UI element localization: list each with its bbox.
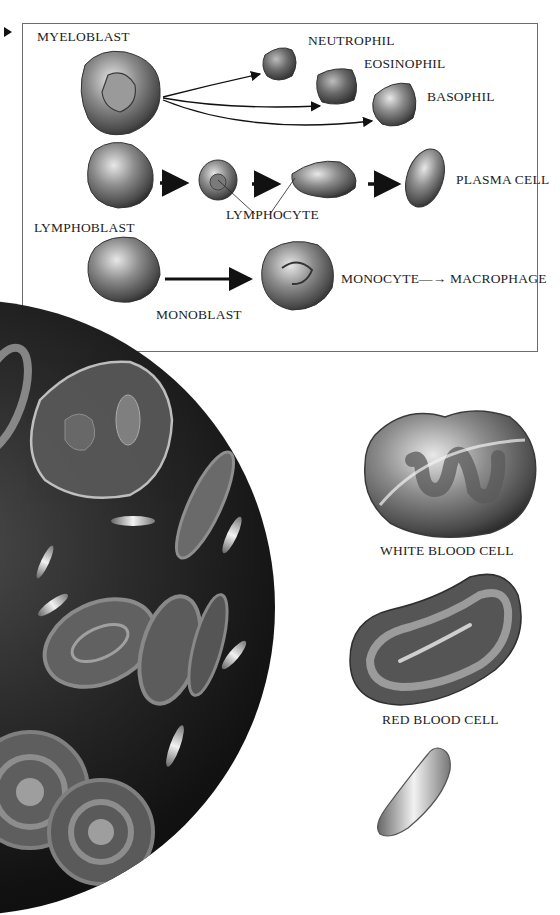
micrograph-rbc-elongated xyxy=(166,446,244,565)
micrograph-rbc-round xyxy=(0,732,153,884)
micrograph-platelet xyxy=(34,544,56,580)
label-white-blood-cell: WHITE BLOOD CELL xyxy=(380,543,514,559)
micrograph-platelet xyxy=(35,591,70,620)
red-blood-cell-illustration xyxy=(340,565,530,710)
micrograph-platelet xyxy=(163,724,187,769)
label-lymphocyte: LYMPHOCYTE xyxy=(226,207,319,223)
arrow-to-eosinophil xyxy=(163,98,320,107)
arrow-to-neutrophil xyxy=(163,74,260,97)
micrograph-cells xyxy=(0,300,275,915)
label-monocyte-macrophage: MONOCYTE—→ MACROPHAGE xyxy=(341,271,547,287)
activated-lymphocyte-cell xyxy=(292,161,356,198)
micrograph-platelet xyxy=(130,323,175,340)
label-plasma-cell: PLASMA CELL xyxy=(456,172,549,188)
monoblast-cell xyxy=(88,237,160,302)
basophil-cell xyxy=(373,83,416,126)
lymphoblast-cell xyxy=(88,142,153,208)
micrograph-white-blood-cell xyxy=(31,362,172,498)
plasma-cell xyxy=(399,144,452,212)
micrograph-platelet xyxy=(219,515,245,555)
red-blood-cell-side-view xyxy=(368,740,458,840)
micrograph-platelet xyxy=(111,516,155,526)
label-eosinophil: EOSINOPHIL xyxy=(364,56,446,72)
label-basophil: BASOPHIL xyxy=(427,89,495,105)
label-red-blood-cell: RED BLOOD CELL xyxy=(382,712,499,728)
white-blood-cell-illustration xyxy=(350,395,550,545)
myeloblast-cell xyxy=(81,51,160,134)
label-lymphoblast: LYMPHOBLAST xyxy=(34,220,135,236)
neutrophil-cell xyxy=(263,48,296,80)
label-neutrophil: NEUTROPHIL xyxy=(308,33,395,49)
label-myeloblast: MYELOBLAST xyxy=(37,29,130,45)
blood-micrograph-circle xyxy=(0,300,275,915)
eosinophil-cell xyxy=(317,69,357,104)
